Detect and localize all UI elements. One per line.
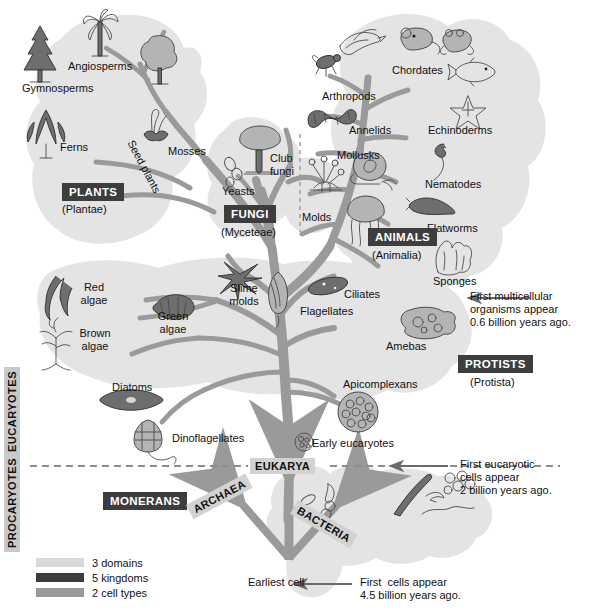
label-red-algae: Red algae xyxy=(74,281,114,306)
domain-label-eukarya: EUKARYA xyxy=(250,458,315,474)
label-ciliates: Ciliates xyxy=(344,288,380,301)
kingdom-label-plants: PLANTS xyxy=(62,183,124,201)
insect-icon xyxy=(312,53,340,76)
legend-label-domains: 3 domains xyxy=(92,557,143,569)
annotation-multicellular: First multicellular organisms appear 0.6… xyxy=(470,290,571,329)
early-eucaryote-icon xyxy=(295,433,313,451)
label-arthropods: Arthropods xyxy=(322,90,376,103)
kingdom-label-fungi: FUNGI xyxy=(224,205,276,223)
legend-label-celltypes: 2 cell types xyxy=(92,587,147,599)
legend-row-domains: 3 domains xyxy=(36,556,148,569)
label-mollusks: Mollusks xyxy=(337,149,380,162)
kingdom-label-monerans: MONERANS xyxy=(103,492,187,510)
label-apicomplexans: Apicomplexans xyxy=(343,378,418,391)
label-angiosperms: Angiosperms xyxy=(68,60,132,73)
dinoflagellate-icon xyxy=(134,420,176,464)
kingdom-latin-fungi: (Myceteae) xyxy=(221,226,276,238)
label-molds: Molds xyxy=(302,211,331,224)
label-flagellates: Flagellates xyxy=(300,305,353,318)
kingdom-latin-protists: (Protista) xyxy=(470,376,515,388)
legend: 3 domains 5 kingdoms 2 cell types xyxy=(36,556,148,601)
legend-label-kingdoms: 5 kingdoms xyxy=(92,572,148,584)
label-slime-molds: Slime molds xyxy=(222,282,266,307)
kingdom-label-animals: ANIMALS xyxy=(368,228,437,246)
label-green-algae: Green algae xyxy=(150,310,196,335)
label-brown-algae: Brown algae xyxy=(72,327,118,352)
label-yeasts: Yeasts xyxy=(222,185,255,198)
label-annelids: Annelids xyxy=(349,124,391,137)
label-echinoderms: Echinoderms xyxy=(428,124,492,137)
kingdom-label-protists: PROTISTS xyxy=(458,355,533,373)
legend-row-celltypes: 2 cell types xyxy=(36,586,148,599)
label-ferns: Ferns xyxy=(60,141,88,154)
label-early-eucaryotes: Early eucaryotes xyxy=(312,437,394,450)
kingdom-latin-plants: (Plantae) xyxy=(62,203,107,215)
legend-swatch-domains xyxy=(36,558,84,567)
celltype-label-procaryotes: PROCARYOTES xyxy=(4,454,20,552)
ameba-icon xyxy=(401,307,455,339)
kingdom-latin-animals: (Animalia) xyxy=(372,249,422,261)
celltype-label-eucaryotes: EUCARYOTES xyxy=(4,367,20,456)
apicomplexan-icon xyxy=(338,392,378,432)
label-dinoflagellates: Dinoflagellates xyxy=(172,432,244,445)
label-diatoms: Diatoms xyxy=(112,381,152,394)
label-nematodes: Nematodes xyxy=(425,178,481,191)
annotation-first-cells: First cells appear 4.5 billion years ago… xyxy=(360,576,461,602)
label-earliest-cell: Earliest cell xyxy=(248,576,304,589)
legend-swatch-celltypes xyxy=(36,588,84,597)
label-sponges: Sponges xyxy=(433,275,476,288)
label-amebas: Amebas xyxy=(386,340,426,353)
label-mosses: Mosses xyxy=(168,145,206,158)
label-gymnosperms: Gymnosperms xyxy=(22,82,94,95)
legend-swatch-kingdoms xyxy=(36,573,84,582)
legend-row-kingdoms: 5 kingdoms xyxy=(36,571,148,584)
tree-of-life-diagram: .blob{fill:#e4e4e4;} .br{fill:none;strok… xyxy=(0,0,595,614)
annotation-eucaryotic-cells: First eucaryotic cells appear 2 billion … xyxy=(460,458,552,497)
label-chordates: Chordates xyxy=(392,64,443,77)
label-club-fungi: Club fungi xyxy=(270,152,294,177)
